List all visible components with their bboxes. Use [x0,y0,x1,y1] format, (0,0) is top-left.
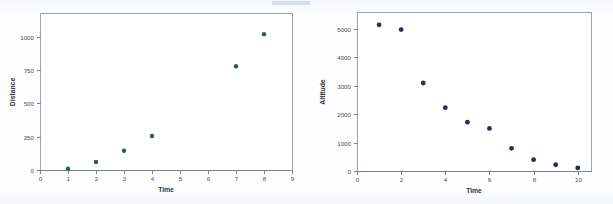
x-tick-label: 8 [533,176,537,183]
page-canvas: 0123456789 02505007501000 Time Distance … [0,0,613,204]
x-tick-label: 10 [575,176,582,183]
x-tick-label: 9 [291,175,295,182]
data-point [399,27,404,32]
altitude-y-axis-title: Altitude [319,79,326,105]
y-tick-label: 1000 [20,34,34,41]
distance-x-axis-title: Time [158,186,174,193]
x-tick-label: 3 [123,175,127,182]
distance-y-axis-title: Distance [9,78,16,107]
data-point [377,22,382,27]
x-tick-label: 7 [235,175,239,182]
x-tick-label: 0 [356,176,360,183]
data-point [531,157,536,162]
altitude-x-axis-ticks: 0246810 [356,172,583,184]
y-tick-label: 250 [24,134,35,141]
y-tick-label: 5000 [337,26,351,33]
y-tick-label: 4000 [337,54,351,61]
y-tick-label: 3000 [337,83,351,90]
data-point [553,162,558,167]
data-point [66,166,70,170]
y-tick-label: 0 [348,168,352,175]
x-tick-label: 6 [488,176,492,183]
data-point [122,149,126,153]
x-tick-label: 8 [263,175,267,182]
x-tick-label: 1 [67,175,71,182]
distance-plot-area [40,13,292,170]
altitude-y-axis-ticks: 010002000300040005000 [337,26,357,175]
altitude-chart-svg: 0246810 010002000300040005000 Time Altit… [312,0,613,204]
data-point [509,146,514,151]
y-tick-label: 500 [24,100,35,107]
y-tick-label: 1000 [337,140,351,147]
data-point [443,105,448,110]
data-point [94,160,98,164]
x-tick-label: 4 [151,175,155,182]
distance-chart-svg: 0123456789 02505007501000 Time Distance [0,0,312,204]
data-point [487,126,492,131]
data-point [262,32,266,36]
data-point [575,165,580,170]
x-tick-label: 4 [444,176,448,183]
data-point [234,64,238,68]
data-point [465,120,470,125]
y-tick-label: 2000 [337,111,351,118]
y-tick-label: 0 [31,167,35,174]
distance-x-axis-ticks: 0123456789 [39,171,295,183]
x-tick-label: 2 [95,175,99,182]
altitude-x-axis-title: Time [466,187,482,194]
x-tick-label: 5 [179,175,183,182]
data-point [150,134,154,138]
x-tick-label: 0 [39,175,43,182]
x-tick-label: 6 [207,175,211,182]
y-tick-label: 750 [24,67,35,74]
data-point [421,81,426,86]
altitude-plot-area [357,12,591,171]
altitude-vs-time-chart: 0246810 010002000300040005000 Time Altit… [312,0,613,204]
distance-y-axis-ticks: 02505007501000 [20,34,40,174]
x-tick-label: 2 [400,176,404,183]
distance-vs-time-chart: 0123456789 02505007501000 Time Distance [0,0,312,204]
